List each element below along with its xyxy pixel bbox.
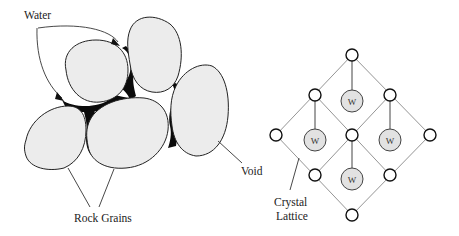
lattice-node: [309, 169, 321, 181]
lattice-node: [384, 89, 396, 101]
water-leader-line: [37, 28, 62, 98]
water-molecule-label: W: [348, 175, 357, 185]
water-molecule: W: [341, 90, 363, 112]
void-leader-line: [218, 141, 242, 163]
rock-grain: [128, 17, 182, 92]
lattice-node: [424, 129, 436, 141]
rock-grain: [65, 40, 128, 102]
lattice-node: [309, 89, 321, 101]
water-label: Water: [24, 9, 51, 21]
rock-grains-label: Rock Grains: [74, 212, 132, 224]
crystal-lattice-diagram: W W W W Cry: [270, 49, 436, 222]
lattice-node: [384, 169, 396, 181]
water-bonds: [315, 55, 390, 178]
water-molecule-label: W: [348, 97, 357, 107]
water-molecule: W: [341, 168, 363, 190]
crystal-lattice-leader-line: [290, 158, 299, 190]
crystal-label: Crystal: [274, 196, 307, 209]
water-molecule-label: W: [386, 136, 395, 146]
lattice-node: [270, 129, 282, 141]
void-label: Void: [241, 165, 263, 177]
rock-grains-leader-line: [68, 168, 90, 207]
water-leader-line: [38, 26, 118, 42]
rock-grains-leader-line: [99, 169, 114, 207]
porous-rock-diagram: Water Void Rock Grains: [24, 9, 263, 224]
lattice-node: [346, 129, 358, 141]
lattice-node: [346, 49, 358, 61]
water-molecule-label: W: [311, 136, 320, 146]
water-molecule: W: [379, 129, 401, 151]
rock-grain: [25, 106, 87, 170]
lattice-label: Lattice: [276, 210, 308, 222]
water-molecule: W: [304, 129, 326, 151]
lattice-node: [346, 209, 358, 221]
diagram-canvas: Water Void Rock Grains W: [0, 0, 459, 236]
arrow-head: [55, 92, 64, 101]
